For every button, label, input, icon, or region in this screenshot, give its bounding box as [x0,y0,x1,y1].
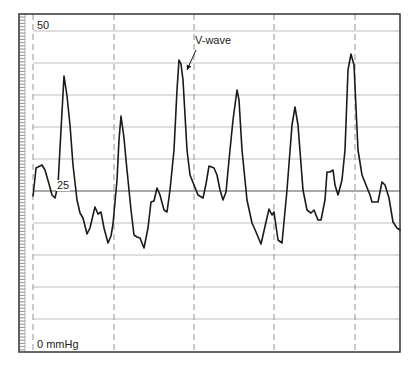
y-axis-unit-label: 0 mmHg [37,339,79,350]
y-tick-label-50: 50 [37,20,49,31]
v-wave-annotation: V-wave [195,35,231,46]
left-ruler-ticks [19,14,25,352]
waveform-line [33,54,400,248]
y-tick-label-25: 25 [56,180,70,191]
chart-frame [19,14,400,352]
